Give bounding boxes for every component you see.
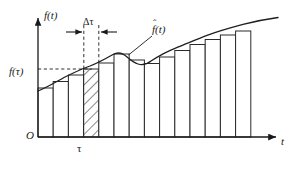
x-axis-label: t [281,136,284,147]
figure-container: f(t) f(τ) O t τ Δτ ˆ f (t) [0,0,299,171]
bar [144,64,159,138]
bar [114,54,129,137]
bar [129,60,144,137]
bar [53,82,68,138]
bar [99,63,114,137]
curve-label-fhat: ˆ f (t) [152,24,165,35]
bar [68,75,83,137]
x-tick-label-tau: τ [77,143,81,154]
delta-tau-label: Δτ [83,17,93,27]
bar [160,57,175,137]
fhat-symbol: ˆ f [152,24,155,35]
bar [205,40,220,138]
hat-accent-icon: ˆ [153,19,156,29]
callout-leader-line [129,36,153,55]
bar-highlighted [84,69,99,137]
bar [236,31,251,137]
staircase-bars [38,31,251,137]
y-tick-label-ftau: f(τ) [9,66,23,77]
origin-label: O [26,130,34,141]
bar [38,88,53,137]
bar [175,51,190,138]
bar [190,45,205,138]
figure-canvas [0,0,299,171]
bar [220,35,235,137]
fhat-argument: (t) [155,23,165,35]
y-axis-label: f(t) [44,10,57,21]
